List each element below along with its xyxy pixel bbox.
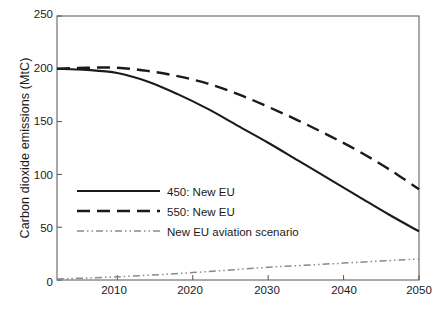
series-line-2 xyxy=(57,259,419,279)
series-lines xyxy=(57,67,419,278)
plot-area xyxy=(0,0,438,333)
legend-label-aviation: New EU aviation scenario xyxy=(167,226,299,238)
legend-label-450: 450: New EU xyxy=(167,186,235,198)
legend-line-samples xyxy=(77,191,160,231)
chart-figure: Carbon dioxide emissions (MtC) 250 200 1… xyxy=(0,0,438,333)
series-line-1 xyxy=(57,67,419,189)
axes-frame xyxy=(57,16,419,280)
axis-ticks xyxy=(57,16,419,280)
legend-label-550: 550: New EU xyxy=(167,206,235,218)
